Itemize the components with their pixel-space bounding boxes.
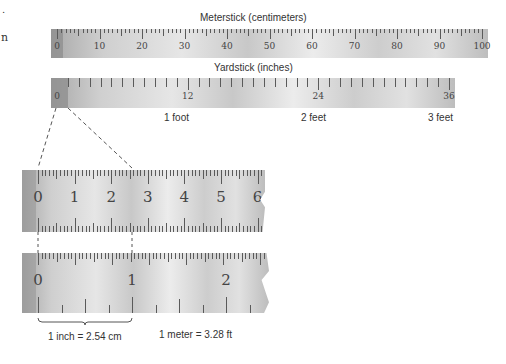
tick-mark bbox=[119, 253, 120, 259]
tick-mark bbox=[151, 226, 152, 232]
tick-mark bbox=[260, 253, 261, 265]
tick-mark bbox=[195, 226, 196, 232]
tick-mark bbox=[184, 170, 185, 184]
tick-mark bbox=[109, 305, 110, 313]
tick-mark bbox=[192, 226, 193, 232]
inch-conversion-label: 1 inch = 2.54 cm bbox=[48, 331, 122, 342]
tick-mark bbox=[186, 253, 187, 265]
tick-mark bbox=[38, 297, 39, 313]
tick-mark bbox=[53, 226, 54, 232]
tick-mark bbox=[254, 170, 255, 176]
tick-mark bbox=[130, 170, 131, 179]
tick-mark bbox=[108, 226, 109, 232]
tick-mark bbox=[156, 305, 157, 313]
tick-mark bbox=[100, 170, 101, 176]
tick-mark bbox=[119, 170, 120, 176]
tick-mark bbox=[86, 226, 87, 232]
tick-mark bbox=[226, 297, 227, 313]
tick-mark bbox=[85, 299, 86, 313]
tick-mark bbox=[64, 253, 65, 259]
ruler-number: 1 bbox=[70, 188, 80, 206]
tick-mark bbox=[236, 170, 237, 176]
tick-mark bbox=[82, 226, 83, 232]
tick-mark bbox=[164, 253, 165, 259]
tick-mark bbox=[142, 253, 143, 259]
tick-mark bbox=[249, 253, 250, 259]
tick-mark bbox=[199, 226, 200, 232]
tick-mark bbox=[208, 253, 209, 259]
tick-mark bbox=[258, 170, 259, 184]
tick-mark bbox=[173, 226, 174, 232]
tick-mark bbox=[111, 170, 112, 184]
tick-mark bbox=[53, 170, 54, 176]
tick-mark bbox=[101, 253, 102, 259]
tick-mark bbox=[140, 170, 141, 176]
tick-mark bbox=[182, 253, 183, 259]
tick-mark bbox=[153, 253, 154, 259]
tick-mark bbox=[228, 226, 229, 232]
tick-mark bbox=[38, 253, 39, 265]
tick-mark bbox=[108, 170, 109, 176]
tick-mark bbox=[82, 170, 83, 176]
tick-mark bbox=[75, 218, 76, 232]
tick-mark bbox=[75, 253, 76, 265]
tick-mark bbox=[75, 170, 76, 184]
ruler-number: 0 bbox=[33, 271, 43, 289]
tick-mark bbox=[228, 170, 229, 176]
tick-mark bbox=[97, 253, 98, 259]
tick-mark bbox=[205, 253, 206, 262]
tick-mark bbox=[60, 253, 61, 259]
tick-mark bbox=[145, 253, 146, 259]
tick-mark bbox=[53, 253, 54, 259]
tick-mark bbox=[108, 253, 109, 259]
tick-mark bbox=[60, 226, 61, 232]
meter-conversion-label: 1 meter = 3.28 ft bbox=[159, 329, 232, 340]
tick-mark bbox=[78, 170, 79, 176]
tick-mark bbox=[206, 226, 207, 232]
tick-mark bbox=[89, 226, 90, 232]
tick-mark bbox=[239, 223, 240, 232]
tick-mark bbox=[156, 253, 157, 259]
tick-mark bbox=[68, 253, 69, 259]
tick-mark bbox=[148, 218, 149, 232]
tick-mark bbox=[104, 226, 105, 232]
tick-mark bbox=[159, 226, 160, 232]
tick-mark bbox=[221, 170, 222, 184]
tick-mark bbox=[123, 253, 124, 259]
tick-mark bbox=[62, 305, 63, 313]
tick-mark bbox=[245, 253, 246, 259]
ruler-number: 6 bbox=[253, 188, 263, 206]
tick-mark bbox=[195, 170, 196, 176]
tick-mark bbox=[126, 170, 127, 176]
tick-mark bbox=[217, 226, 218, 232]
tick-mark bbox=[181, 226, 182, 232]
tick-mark bbox=[100, 226, 101, 232]
tick-mark bbox=[71, 253, 72, 259]
tick-mark bbox=[253, 253, 254, 259]
tick-mark bbox=[199, 170, 200, 176]
tick-mark bbox=[56, 170, 57, 179]
tick-mark bbox=[115, 226, 116, 232]
tick-mark bbox=[160, 253, 161, 259]
tick-mark bbox=[149, 253, 150, 265]
tick-mark bbox=[243, 226, 244, 232]
tick-mark bbox=[225, 170, 226, 176]
tick-mark bbox=[132, 297, 133, 313]
tick-mark bbox=[166, 223, 167, 232]
tick-mark bbox=[137, 226, 138, 232]
tick-mark bbox=[111, 218, 112, 232]
tick-mark bbox=[264, 253, 265, 259]
tick-mark bbox=[206, 170, 207, 176]
tick-mark bbox=[203, 223, 204, 232]
tick-mark bbox=[216, 253, 217, 259]
tick-mark bbox=[171, 253, 172, 259]
tick-mark bbox=[168, 253, 169, 262]
tick-mark bbox=[64, 170, 65, 176]
tick-mark bbox=[212, 253, 213, 259]
tick-mark bbox=[151, 170, 152, 176]
tick-mark bbox=[223, 253, 224, 265]
tick-mark bbox=[155, 170, 156, 176]
tick-mark bbox=[86, 253, 87, 259]
zoomed-inch-ruler: 012 bbox=[22, 253, 269, 313]
tick-mark bbox=[261, 226, 262, 232]
